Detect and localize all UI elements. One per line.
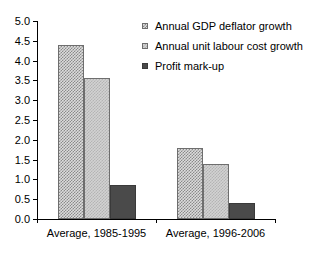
- legend-item-label: Annual GDP deflator growth: [155, 21, 292, 32]
- x-tick-label: Average, 1996-2006: [156, 227, 275, 240]
- y-tick-label: 4.5: [0, 36, 30, 47]
- bar: [229, 203, 255, 219]
- x-tick: [37, 219, 38, 223]
- bar: [58, 45, 84, 219]
- y-tick-label: 0.0: [0, 214, 30, 225]
- y-tick-label: 3.0: [0, 95, 30, 106]
- chart-legend: Annual GDP deflator growthAnnual unit la…: [142, 16, 303, 76]
- y-tick-label: 0.5: [0, 194, 30, 205]
- bar: [84, 78, 110, 219]
- legend-swatch-icon: [142, 23, 148, 29]
- x-tick: [156, 219, 157, 223]
- bar: [203, 164, 229, 219]
- legend-item: Annual GDP deflator growth: [142, 16, 303, 36]
- legend-item-label: Annual unit labour cost growth: [155, 41, 303, 52]
- legend-item: Annual unit labour cost growth: [142, 36, 303, 56]
- legend-item: Profit mark-up: [142, 56, 303, 76]
- y-tick-label: 1.5: [0, 155, 30, 166]
- y-tick-label: 3.5: [0, 75, 30, 86]
- y-tick-label: 2.5: [0, 115, 30, 126]
- y-tick-label: 1.0: [0, 174, 30, 185]
- bar: [110, 185, 136, 219]
- legend-swatch-icon: [142, 43, 148, 49]
- x-tick-label: Average, 1985-1995: [37, 227, 156, 240]
- legend-item-label: Profit mark-up: [155, 61, 224, 72]
- x-tick: [275, 219, 276, 223]
- y-tick-label: 4.0: [0, 56, 30, 67]
- y-tick-label: 2.0: [0, 135, 30, 146]
- y-tick-label: 5.0: [0, 16, 30, 27]
- bar-chart: 0.00.51.01.52.02.53.03.54.04.55.0 Averag…: [0, 0, 316, 258]
- legend-swatch-icon: [142, 63, 148, 69]
- bar: [177, 148, 203, 219]
